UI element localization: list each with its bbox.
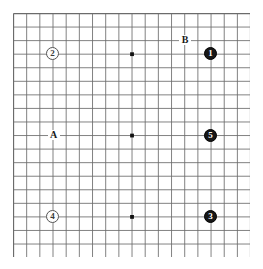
go-board-diagram: 12345 AB bbox=[0, 0, 263, 269]
star-point bbox=[130, 134, 134, 138]
board-point-label-b: B bbox=[179, 35, 191, 45]
stone-move-number: 2 bbox=[50, 49, 55, 58]
stone-move-number: 4 bbox=[50, 212, 55, 221]
go-stone-black-5[interactable]: 5 bbox=[204, 129, 217, 142]
star-point bbox=[130, 215, 134, 219]
go-stone-black-3[interactable]: 3 bbox=[204, 210, 217, 223]
board-point-label-a: A bbox=[48, 130, 60, 140]
star-point bbox=[130, 52, 134, 56]
stone-move-number: 5 bbox=[208, 131, 213, 140]
go-stone-white-4[interactable]: 4 bbox=[46, 210, 59, 223]
stone-move-number: 1 bbox=[208, 49, 213, 58]
stone-move-number: 3 bbox=[208, 212, 213, 221]
